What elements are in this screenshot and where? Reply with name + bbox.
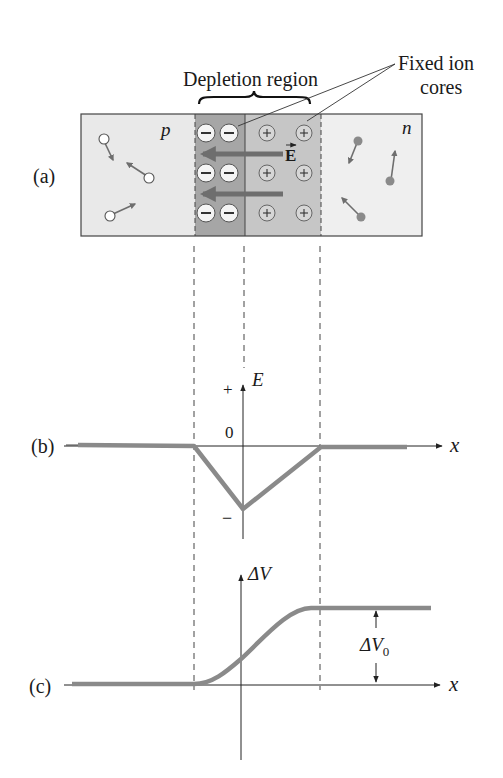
n-type-label: n (402, 118, 412, 137)
delta-v0-text: ΔV (360, 634, 383, 655)
hole (144, 173, 154, 183)
field-vector-label: E (285, 147, 296, 164)
potential-plot (64, 445, 440, 760)
panel-c-label: (c) (29, 676, 51, 696)
b-plus-tick: + (223, 381, 233, 398)
depletion-region-label: Depletion region (183, 69, 318, 89)
electron (386, 177, 395, 186)
b-minus-tick: − (222, 509, 232, 527)
c-v-axis-text: ΔV (248, 563, 271, 584)
delta-v0-label: ΔV0 (360, 635, 389, 658)
b-x-axis-label: x (450, 435, 459, 456)
p-type-label: p (161, 120, 171, 139)
c-x-axis-label: x (449, 674, 458, 695)
p-region (81, 114, 195, 236)
electron (357, 213, 366, 222)
depletion-brace (199, 91, 310, 104)
delta-v0-subscript: 0 (383, 644, 390, 659)
b-e-axis-label: E (252, 370, 264, 389)
hole (105, 211, 115, 221)
fixed-ion-cores-label-line1: Fixed ion (398, 53, 474, 73)
panel-b-label: (b) (31, 436, 54, 456)
panel-a-label: (a) (33, 166, 55, 186)
pn-junction-diagram: Depletion region Fixed ion cores p n E (… (0, 0, 503, 778)
b-zero-tick: 0 (225, 424, 234, 441)
hole (99, 134, 109, 144)
fixed-ion-cores-label-line2: cores (420, 77, 462, 97)
electron (354, 137, 363, 146)
junction-block (81, 114, 422, 236)
field-plot (64, 385, 442, 539)
c-v-axis-label: ΔV (248, 564, 271, 583)
